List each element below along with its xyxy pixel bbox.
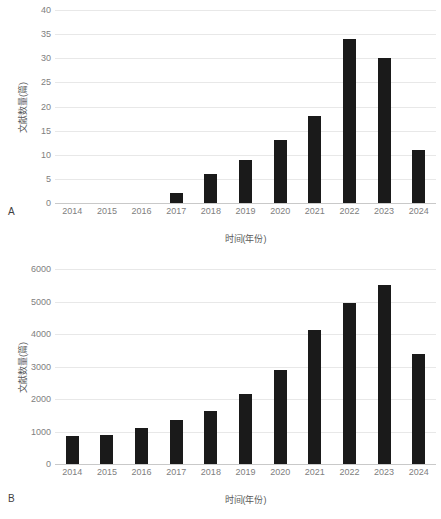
bar <box>170 420 183 464</box>
y-tick-label: 35 <box>41 30 51 39</box>
bar-cell <box>55 269 90 464</box>
y-tick-label: 2000 <box>31 395 51 404</box>
x-tick-label: 2019 <box>228 467 263 477</box>
x-axis-line <box>55 203 436 204</box>
x-tick-label: 2024 <box>401 467 436 477</box>
bar <box>412 354 425 464</box>
y-tick-label: 6000 <box>31 265 51 274</box>
x-tick-label: 2021 <box>297 206 332 216</box>
bar-cell <box>367 269 402 464</box>
bar-cell <box>194 269 229 464</box>
x-tick-label: 2020 <box>263 206 298 216</box>
bar <box>204 411 217 464</box>
bar-cell <box>332 10 367 203</box>
bar-series-b <box>55 269 436 464</box>
x-tick-label: 2014 <box>55 467 90 477</box>
x-tick-label: 2017 <box>159 206 194 216</box>
bar <box>343 303 356 464</box>
x-tick-label: 2018 <box>194 206 229 216</box>
bar <box>343 39 356 203</box>
bar <box>378 285 391 464</box>
bar-cell <box>401 10 436 203</box>
bar <box>239 394 252 464</box>
y-tick-label: 20 <box>41 103 51 112</box>
x-tick-label: 2017 <box>159 467 194 477</box>
panel-letter-b: B <box>8 493 15 504</box>
x-tick-label: 2024 <box>401 206 436 216</box>
x-tick-label: 2023 <box>367 206 402 216</box>
y-tick-label: 0 <box>46 199 51 208</box>
bar <box>100 435 113 464</box>
plot-area-b <box>55 269 436 464</box>
bar-cell <box>228 10 263 203</box>
x-axis-title-a: 时间(年份) <box>55 232 436 245</box>
x-axis-tick-labels-a: 2014201520162017201820192020202120222023… <box>55 206 436 216</box>
y-tick-label: 1000 <box>31 428 51 437</box>
bar <box>308 116 321 203</box>
y-axis-tick-labels-a: 0510152025303540 <box>17 10 51 203</box>
bar-cell <box>228 269 263 464</box>
bar <box>170 193 183 203</box>
bar-cell <box>297 10 332 203</box>
panel-letter-a: A <box>8 206 15 217</box>
bar-cell <box>367 10 402 203</box>
y-tick-label: 5000 <box>31 298 51 307</box>
y-tick-label: 40 <box>41 6 51 15</box>
x-tick-label: 2015 <box>90 467 125 477</box>
y-tick-label: 5 <box>46 175 51 184</box>
bar <box>135 428 148 464</box>
bar-cell <box>332 269 367 464</box>
bar-cell <box>159 10 194 203</box>
bar <box>378 58 391 203</box>
bar-cell <box>124 269 159 464</box>
y-tick-label: 25 <box>41 78 51 87</box>
x-tick-label: 2015 <box>90 206 125 216</box>
x-tick-label: 2016 <box>124 467 159 477</box>
bar-cell <box>90 10 125 203</box>
x-tick-label: 2019 <box>228 206 263 216</box>
bar-cell <box>401 269 436 464</box>
bar-cell <box>263 10 298 203</box>
x-axis-title-b: 时间(年份) <box>55 493 436 506</box>
x-axis-tick-labels-b: 2014201520162017201820192020202120222023… <box>55 467 436 477</box>
y-tick-label: 0 <box>46 460 51 469</box>
chart-panel-b: 文献数量(篇) 0100020003000400050006000 201420… <box>0 255 441 519</box>
bar <box>239 160 252 203</box>
bar-series-a <box>55 10 436 203</box>
x-tick-label: 2023 <box>367 467 402 477</box>
bar <box>308 330 321 464</box>
bar-cell <box>263 269 298 464</box>
y-axis-tick-labels-b: 0100020003000400050006000 <box>17 269 51 464</box>
bar-cell <box>90 269 125 464</box>
x-tick-label: 2022 <box>332 206 367 216</box>
bar-cell <box>124 10 159 203</box>
bar-cell <box>297 269 332 464</box>
bar-cell <box>159 269 194 464</box>
bar <box>274 370 287 464</box>
y-tick-label: 4000 <box>31 330 51 339</box>
bar-cell <box>55 10 90 203</box>
bar <box>66 436 79 464</box>
bar <box>274 140 287 203</box>
y-tick-label: 15 <box>41 127 51 136</box>
x-tick-label: 2021 <box>297 467 332 477</box>
x-tick-label: 2022 <box>332 467 367 477</box>
x-tick-label: 2020 <box>263 467 298 477</box>
y-tick-label: 10 <box>41 151 51 160</box>
x-axis-line <box>55 464 436 465</box>
x-tick-label: 2016 <box>124 206 159 216</box>
x-tick-label: 2018 <box>194 467 229 477</box>
bar-cell <box>194 10 229 203</box>
bar <box>204 174 217 203</box>
chart-panel-a: 文献数量(篇) 0510152025303540 201420152016201… <box>0 0 441 255</box>
bar <box>412 150 425 203</box>
y-tick-label: 3000 <box>31 363 51 372</box>
y-tick-label: 30 <box>41 54 51 63</box>
plot-area-a <box>55 10 436 203</box>
x-tick-label: 2014 <box>55 206 90 216</box>
